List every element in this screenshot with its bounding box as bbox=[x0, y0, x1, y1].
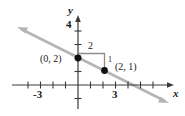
x-tick-label-3: 3 bbox=[112, 89, 118, 100]
y-tick-label-4: 4 bbox=[66, 19, 72, 30]
slope-bracket bbox=[78, 54, 105, 70]
point-label-0-2: (0, 2) bbox=[40, 54, 62, 64]
rise-length-label: 1 bbox=[108, 56, 112, 64]
x-tick-label-neg3: -3 bbox=[33, 89, 42, 100]
y-axis-label: y bbox=[68, 5, 73, 16]
point-2-1 bbox=[101, 67, 108, 74]
run-length-label: 2 bbox=[88, 41, 93, 51]
x-axis-label: x bbox=[173, 88, 179, 99]
coordinate-graph-figure: y x 4 -3 3 (0, 2) (2, 1) 2 1 bbox=[0, 0, 185, 116]
y-axis bbox=[75, 15, 82, 109]
point-label-2-1: (2, 1) bbox=[115, 62, 137, 72]
point-0-2 bbox=[75, 55, 82, 62]
graph-canvas bbox=[0, 0, 185, 116]
